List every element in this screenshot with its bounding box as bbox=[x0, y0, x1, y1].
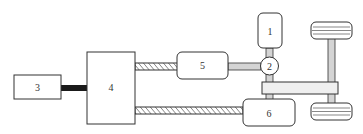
grey-shaft-5-to-2 bbox=[228, 63, 261, 70]
component-6-label: 6 bbox=[267, 108, 272, 119]
component-2-label: 2 bbox=[267, 61, 272, 72]
component-3-label: 3 bbox=[35, 82, 40, 93]
black-shaft-3-to-4 bbox=[61, 85, 88, 91]
component-5: 5 bbox=[177, 52, 228, 79]
component-3: 3 bbox=[14, 75, 61, 99]
component-4: 4 bbox=[87, 52, 135, 124]
hatched-shaft-4-to-5 bbox=[135, 63, 178, 70]
hatched-shaft-4-to-6 bbox=[135, 107, 243, 114]
component-2: 2 bbox=[261, 57, 279, 75]
component-1: 1 bbox=[258, 13, 282, 48]
wheel-top-icon bbox=[311, 22, 352, 39]
powertrain-diagram: 3 4 5 1 2 6 bbox=[0, 0, 363, 134]
component-4-label: 4 bbox=[109, 82, 114, 93]
transfer-bar bbox=[262, 82, 338, 94]
component-1-label: 1 bbox=[268, 26, 273, 37]
component-6: 6 bbox=[243, 99, 295, 126]
component-5-label: 5 bbox=[200, 60, 205, 71]
wheel-bottom-icon bbox=[311, 103, 352, 120]
